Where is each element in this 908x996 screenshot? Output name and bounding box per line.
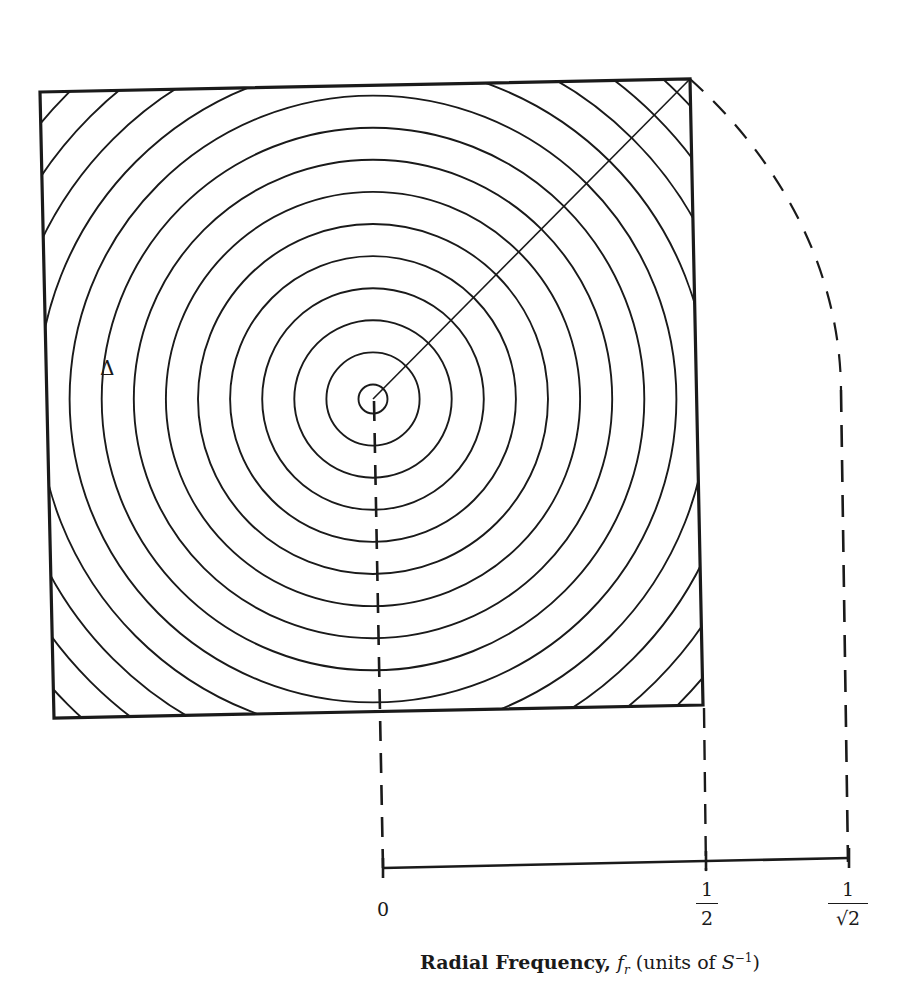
variable-base: f — [617, 951, 624, 973]
frequency-domain-square — [40, 79, 703, 718]
axis-caption: Radial Frequency, fr (units of S−1) — [420, 951, 760, 977]
tick-label-one-over-root-two: 1 √2 — [828, 880, 868, 928]
caption-units-variable: S — [722, 951, 735, 973]
caption-units-exponent: −1 — [735, 951, 753, 965]
axis-line — [383, 858, 849, 868]
tick-label-one-half: 1 2 — [696, 880, 718, 928]
frequency-ring — [0, 0, 773, 799]
variable-subscript: r — [624, 963, 630, 977]
caption-variable: fr — [617, 951, 630, 973]
caption-units-suffix: ) — [752, 951, 759, 973]
frequency-ring — [70, 96, 677, 703]
fraction-denominator: 2 — [696, 903, 718, 928]
radial-frequency-diagram: Δ 0 1 2 1 √2 Radial Frequency, fr (units… — [0, 0, 908, 996]
fraction-numerator: 1 — [696, 880, 718, 903]
corner-projection-dashed-arc — [690, 79, 841, 390]
frequency-axis — [383, 848, 849, 878]
caption-units-prefix: (units of — [636, 951, 722, 973]
caption-title: Radial Frequency, — [420, 951, 611, 973]
center-projection-dashed-line — [374, 401, 383, 868]
diagram-canvas — [0, 0, 908, 996]
edge-projection-dashed-line — [704, 708, 706, 870]
fraction-numerator: 1 — [828, 880, 868, 903]
delta-region-label: Δ — [100, 356, 114, 380]
tick-label-zero: 0 — [377, 900, 389, 919]
center-to-corner-radius-line — [373, 79, 690, 399]
corner-projection-dashed-line — [841, 390, 848, 862]
fraction-denominator: √2 — [828, 903, 868, 928]
